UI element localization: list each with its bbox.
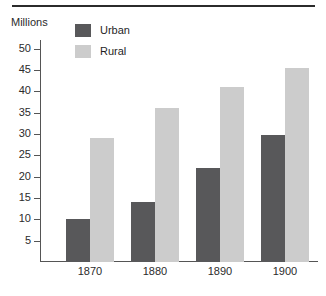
legend-swatch-icon (75, 24, 91, 37)
y-tick-label: 25 (19, 148, 31, 161)
y-tick-label: 30 (19, 127, 31, 140)
bar-urban-1880[interactable] (131, 202, 155, 262)
x-tick-label: 1880 (131, 265, 179, 278)
y-axis-line (40, 40, 41, 262)
top-divider-rule (12, 5, 315, 7)
y-tick-mark (34, 49, 41, 50)
y-axis-unit-label: Millions (11, 16, 48, 29)
bar-group: 1880 (131, 40, 179, 262)
x-tick-label: 1900 (261, 265, 309, 278)
y-tick-label: 20 (19, 170, 31, 183)
y-tick-mark (34, 70, 41, 71)
y-tick-mark (34, 219, 41, 220)
y-tick-mark (34, 177, 41, 178)
y-tick-label: 40 (19, 84, 31, 97)
y-tick-label: 10 (19, 212, 31, 225)
y-tick-mark (34, 241, 41, 242)
y-tick-label: 45 (19, 63, 31, 76)
figure-container: Millions UrbanRural 5101520253035404550 … (0, 0, 326, 296)
bar-urban-1870[interactable] (66, 219, 90, 262)
y-tick-label: 50 (19, 42, 31, 55)
bar-rural-1870[interactable] (90, 138, 114, 262)
bar-group: 1890 (196, 40, 244, 262)
y-tick-mark (34, 113, 41, 114)
bar-urban-1890[interactable] (196, 168, 220, 262)
bar-rural-1880[interactable] (155, 108, 179, 262)
bar-group: 1870 (66, 40, 114, 262)
y-tick-label: 35 (19, 106, 31, 119)
bar-urban-1900[interactable] (261, 135, 285, 262)
plot-area: 5101520253035404550 1870188018901900 (40, 40, 318, 262)
x-tick-label: 1890 (196, 265, 244, 278)
y-tick-label: 5 (25, 234, 31, 247)
y-tick-mark (34, 198, 41, 199)
bar-rural-1900[interactable] (285, 68, 309, 262)
y-tick-mark (34, 155, 41, 156)
bar-rural-1890[interactable] (220, 87, 244, 262)
legend-item-urban[interactable]: Urban (75, 22, 130, 39)
x-tick-label: 1870 (66, 265, 114, 278)
bar-group: 1900 (261, 40, 309, 262)
y-tick-mark (34, 91, 41, 92)
legend-item-label: Urban (100, 24, 130, 37)
y-tick-label: 15 (19, 191, 31, 204)
y-tick-mark (34, 134, 41, 135)
